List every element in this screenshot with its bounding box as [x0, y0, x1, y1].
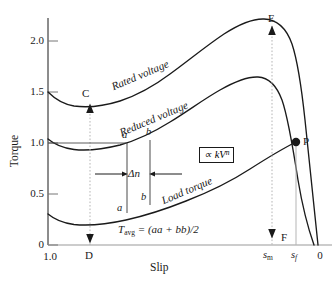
label-a-lower: a: [117, 203, 122, 214]
torque-slip-figure: 0 0.5 1.0 1.5 2.0 Torque 1.0 sm sf 0 Sli…: [0, 0, 336, 281]
label-a-upper: a: [122, 130, 127, 141]
curve-load-torque: [48, 142, 296, 225]
y-tick-05: 0.5: [12, 188, 44, 199]
boxed-prop-symbol: ∝: [204, 149, 212, 160]
label-delta-n: Δn: [128, 168, 140, 179]
x-tick-sm-sub: m: [267, 253, 273, 262]
marker-line-cd: [86, 104, 94, 246]
label-b-upper: b: [146, 127, 151, 138]
y-tick-20: 2.0: [12, 35, 44, 46]
point-label-f: F: [281, 232, 287, 243]
label-b-lower: b: [141, 192, 146, 203]
operating-point-p: [292, 138, 300, 146]
y-tick-0: 0: [22, 239, 44, 250]
formula-expression: = (aa + bb)/2: [135, 223, 199, 235]
x-tick-left: 1.0: [38, 251, 62, 262]
formula-avg-subscript: avg: [124, 228, 135, 237]
point-label-e: E: [268, 13, 275, 24]
point-label-p: P: [303, 136, 309, 147]
y-axis-title: Torque: [8, 121, 20, 181]
x-tick-sf: sf: [291, 250, 297, 262]
curve-rated-voltage: [48, 19, 318, 245]
boxed-proportionality-annotation: ∝ kVn: [199, 147, 234, 163]
formula-average-torque: Tavg = (aa + bb)/2: [118, 224, 199, 236]
boxed-n-exponent: n: [226, 148, 230, 157]
point-label-d: D: [85, 250, 93, 261]
point-label-c: C: [82, 88, 89, 99]
marker-line-ef: [268, 26, 276, 246]
x-axis-title: Slip: [150, 262, 169, 274]
x-tick-sm: sm: [263, 250, 273, 262]
x-tick-zero: 0: [312, 250, 328, 261]
x-tick-sf-sub: f: [295, 253, 297, 262]
y-tick-15: 1.5: [12, 86, 44, 97]
